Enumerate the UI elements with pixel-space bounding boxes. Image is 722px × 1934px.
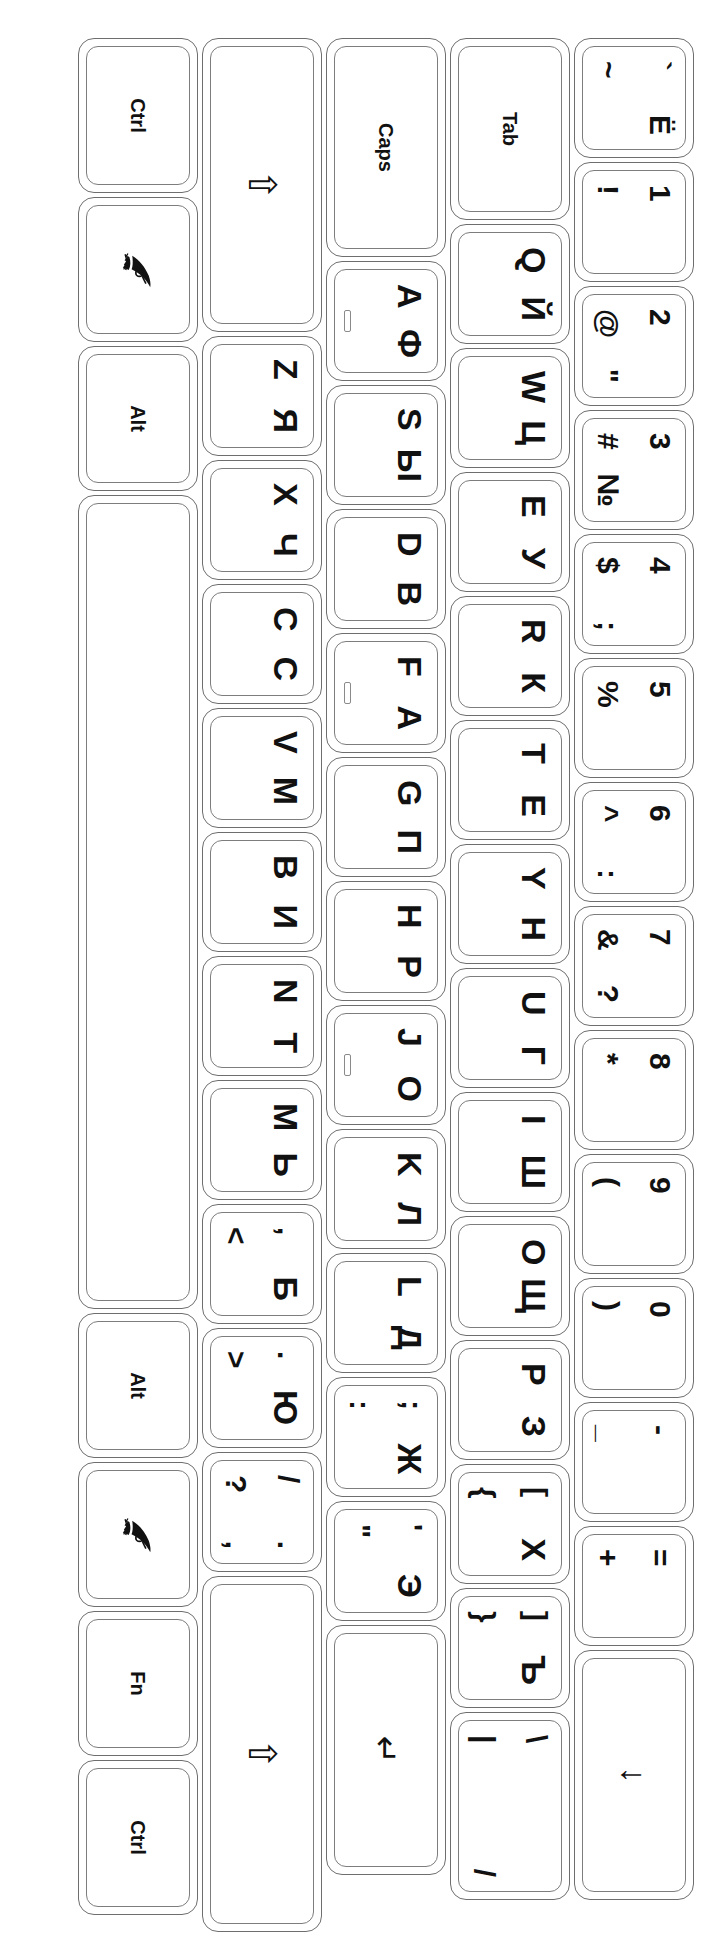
key-keyA[interactable]: AФ <box>326 261 446 381</box>
key-cyrillic-keyZ: Я <box>269 409 303 433</box>
key-keyN[interactable]: NТ <box>202 956 322 1076</box>
key-altleft[interactable]: Alt <box>78 346 198 491</box>
key-ctrlright[interactable]: Ctrl <box>78 1760 198 1915</box>
key-keyH[interactable]: HР <box>326 881 446 1001</box>
key-keyZ[interactable]: ZЯ <box>202 336 322 456</box>
key-bracketright[interactable]: ]}Ъ <box>450 1588 570 1708</box>
keycap-keyO: OЩ <box>458 1224 562 1328</box>
key-keyB[interactable]: BИ <box>202 832 322 952</box>
key-slash-slash: / <box>273 1475 303 1483</box>
keycap-keyM: MЬ <box>210 1088 314 1192</box>
key-period[interactable]: .>Ю <box>202 1328 322 1448</box>
key-quote[interactable]: '"Э <box>326 1501 446 1621</box>
key-keyY[interactable]: YН <box>450 844 570 964</box>
key-cyrillic-period: Ю <box>269 1390 303 1425</box>
key-enter[interactable]: ↵ <box>326 1625 446 1875</box>
key-digit6[interactable]: 6^: <box>574 782 694 902</box>
key-digit4[interactable]: 4$; <box>574 534 694 654</box>
key-digit0[interactable]: 0) <box>574 1278 694 1398</box>
key-keyW[interactable]: WЦ <box>450 348 570 468</box>
key-latin-keyT: T <box>517 743 551 764</box>
key-digit-digit5: 5 <box>645 681 675 698</box>
key-digit7[interactable]: 7&? <box>574 906 694 1026</box>
key-shiftleft[interactable]: ⇧ <box>202 38 322 332</box>
key-latin-keyY: Y <box>517 867 551 890</box>
key-label-tab: Tab <box>500 47 520 211</box>
key-semicolon[interactable]: ;:Ж <box>326 1377 446 1497</box>
keycap-winleft <box>86 205 190 334</box>
key-keyV[interactable]: VМ <box>202 708 322 828</box>
key-slash[interactable]: /?., <box>202 1452 322 1572</box>
key-cyrillic-keyI: Ш <box>517 1155 551 1189</box>
keycap-digit3: 3#№ <box>582 418 686 522</box>
home-row-notch <box>344 682 351 704</box>
key-tab[interactable]: Tab <box>450 38 570 220</box>
key-cyrillic-backquote: Ё <box>645 115 675 135</box>
key-latin-keyZ: Z <box>269 359 303 380</box>
key-latin-keyQ: Q <box>517 247 551 273</box>
key-equal[interactable]: =+ <box>574 1526 694 1646</box>
key-backslash[interactable]: \|/ <box>450 1712 570 1900</box>
key-keyK[interactable]: KЛ <box>326 1129 446 1249</box>
key-cyrillic-keyO: Щ <box>517 1278 551 1313</box>
key-digit-digit8: 8 <box>645 1053 675 1070</box>
keycap-keyX: XЧ <box>210 468 314 572</box>
key-bracketleft[interactable]: [{Х <box>450 1464 570 1584</box>
key-keyL[interactable]: LД <box>326 1253 446 1373</box>
key-latin-keyF: F <box>393 656 427 677</box>
key-backspace[interactable]: ↓ <box>574 1650 694 1900</box>
key-shiftright[interactable]: ⇧ <box>202 1576 322 1932</box>
key-digit3[interactable]: 3#№ <box>574 410 694 530</box>
key-cyrillic-keyS: Ы <box>393 449 427 482</box>
key-keyS[interactable]: SЫ <box>326 385 446 505</box>
key-keyQ[interactable]: QЙ <box>450 224 570 344</box>
key-keyJ[interactable]: JО <box>326 1005 446 1125</box>
home-row-notch <box>344 310 351 332</box>
key-cyrillic-keyB: И <box>269 905 303 929</box>
key-keyG[interactable]: GП <box>326 757 446 877</box>
key-comma[interactable]: ,<Б <box>202 1204 322 1324</box>
key-keyP[interactable]: PЗ <box>450 1340 570 1460</box>
keycap-capslock: Caps <box>334 46 438 249</box>
keycap-shiftright: ⇧ <box>210 1584 314 1924</box>
key-cyrillic-keyR: К <box>517 672 551 693</box>
key-cyrillic-digit3: № <box>593 474 623 507</box>
key-digit8[interactable]: 8* <box>574 1030 694 1150</box>
key-digit9[interactable]: 9( <box>574 1154 694 1274</box>
key-cyrillic-keyD: В <box>393 581 427 606</box>
key-winleft[interactable] <box>78 197 198 342</box>
key-cyrillic-digit7: ? <box>593 985 623 1003</box>
key-cyrillic-keyU: Г <box>517 1046 551 1065</box>
key-keyI[interactable]: IШ <box>450 1092 570 1212</box>
key-ctrlleft[interactable]: Ctrl <box>78 38 198 193</box>
key-backquote[interactable]: `~Ё <box>574 38 694 158</box>
key-digit-digit0: 0 <box>645 1301 675 1318</box>
key-minus[interactable]: -_ <box>574 1402 694 1522</box>
key-keyM[interactable]: MЬ <box>202 1080 322 1200</box>
key-shift-digit0: ) <box>593 1301 623 1311</box>
key-space[interactable] <box>78 495 198 1309</box>
key-digit5[interactable]: 5% <box>574 658 694 778</box>
key-keyD[interactable]: DВ <box>326 509 446 629</box>
key-latin-keyU: U <box>517 991 551 1016</box>
key-keyX[interactable]: XЧ <box>202 460 322 580</box>
key-winright[interactable] <box>78 1462 198 1607</box>
key-keyC[interactable]: CС <box>202 584 322 704</box>
key-keyE[interactable]: EУ <box>450 472 570 592</box>
key-keyO[interactable]: OЩ <box>450 1216 570 1336</box>
key-keyT[interactable]: TЕ <box>450 720 570 840</box>
key-latin-keyX: X <box>269 483 303 506</box>
key-keyF[interactable]: FА <box>326 633 446 753</box>
key-keyU[interactable]: UГ <box>450 968 570 1088</box>
key-latin-keyK: K <box>393 1152 427 1177</box>
key-fn[interactable]: Fn <box>78 1611 198 1756</box>
keycap-keyR: RК <box>458 604 562 708</box>
key-keyR[interactable]: RК <box>450 596 570 716</box>
key-digit-digit7: 7 <box>645 929 675 946</box>
key-altright[interactable]: Alt <box>78 1313 198 1458</box>
key-digit1[interactable]: 1! <box>574 162 694 282</box>
key-digit2[interactable]: 2@" <box>574 286 694 406</box>
key-pipe-backslash: | <box>469 1735 499 1743</box>
key-capslock[interactable]: Caps <box>326 38 446 257</box>
key-cyrillic-keyJ: О <box>393 1076 427 1102</box>
